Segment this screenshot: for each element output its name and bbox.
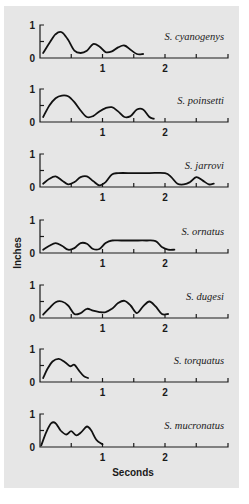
x-tick-label: 2 bbox=[162, 127, 168, 138]
x-tick-label: 1 bbox=[100, 323, 106, 334]
y-axis-title: Inches bbox=[12, 237, 23, 269]
species-label: S. torquatus bbox=[174, 355, 224, 366]
y-tick-label-0: 0 bbox=[29, 313, 35, 324]
panel-s--ornatus: 0112S. ornatus bbox=[29, 215, 228, 269]
display-curve bbox=[43, 173, 214, 185]
panel-s--dugesi: 0112S. dugesi bbox=[29, 280, 228, 334]
display-curve bbox=[43, 301, 168, 315]
x-tick-label: 1 bbox=[100, 387, 106, 398]
x-axis-title: Seconds bbox=[112, 467, 154, 478]
display-curve bbox=[41, 422, 102, 445]
y-tick-label-1: 1 bbox=[29, 215, 35, 226]
x-tick-label: 1 bbox=[100, 452, 106, 463]
display-curve bbox=[43, 359, 88, 378]
x-tick-label: 2 bbox=[162, 258, 168, 269]
display-curve bbox=[43, 95, 154, 118]
display-curve bbox=[43, 32, 143, 54]
species-label: S. ornatus bbox=[181, 226, 224, 237]
x-tick-label: 2 bbox=[162, 323, 168, 334]
species-label: S. cyanogenys bbox=[165, 31, 224, 42]
y-tick-label-0: 0 bbox=[29, 117, 35, 128]
y-tick-label-1: 1 bbox=[29, 409, 35, 420]
display-curve bbox=[43, 240, 174, 250]
x-tick-label: 1 bbox=[100, 258, 106, 269]
y-tick-label-0: 0 bbox=[29, 248, 35, 259]
x-tick-label: 2 bbox=[162, 387, 168, 398]
y-tick-label-1: 1 bbox=[29, 84, 35, 95]
species-label: S. jarrovi bbox=[185, 160, 224, 171]
y-tick-label-1: 1 bbox=[29, 20, 35, 31]
x-tick-label: 2 bbox=[162, 63, 168, 74]
x-tick-label: 1 bbox=[100, 63, 106, 74]
x-tick-label: 2 bbox=[162, 192, 168, 203]
panel-s--cyanogenys: 0112S. cyanogenys bbox=[29, 20, 228, 74]
panels-group: 0112S. cyanogenys0112S. poinsetti0112S. … bbox=[29, 20, 228, 463]
panel-s--torquatus: 0112S. torquatus bbox=[29, 344, 228, 398]
y-tick-label-0: 0 bbox=[29, 377, 35, 388]
y-tick-label-1: 1 bbox=[29, 344, 35, 355]
y-tick-label-0: 0 bbox=[29, 442, 35, 453]
x-tick-label: 1 bbox=[100, 192, 106, 203]
panel-s--mucronatus: 0112S. mucronatus bbox=[29, 409, 228, 463]
y-tick-label-1: 1 bbox=[29, 280, 35, 291]
y-tick-label-1: 1 bbox=[29, 149, 35, 160]
panel-s--poinsetti: 0112S. poinsetti bbox=[29, 84, 228, 138]
y-tick-label-0: 0 bbox=[29, 182, 35, 193]
species-label: S. dugesi bbox=[186, 291, 224, 302]
species-label: S. poinsetti bbox=[177, 95, 224, 106]
species-label: S. mucronatus bbox=[164, 420, 224, 431]
panel-s--jarrovi: 0112S. jarrovi bbox=[29, 149, 228, 203]
y-tick-label-0: 0 bbox=[29, 53, 35, 64]
x-tick-label: 1 bbox=[100, 127, 106, 138]
x-tick-label: 2 bbox=[162, 452, 168, 463]
chart-svg: Inches Seconds 0112S. cyanogenys0112S. p… bbox=[0, 0, 249, 504]
